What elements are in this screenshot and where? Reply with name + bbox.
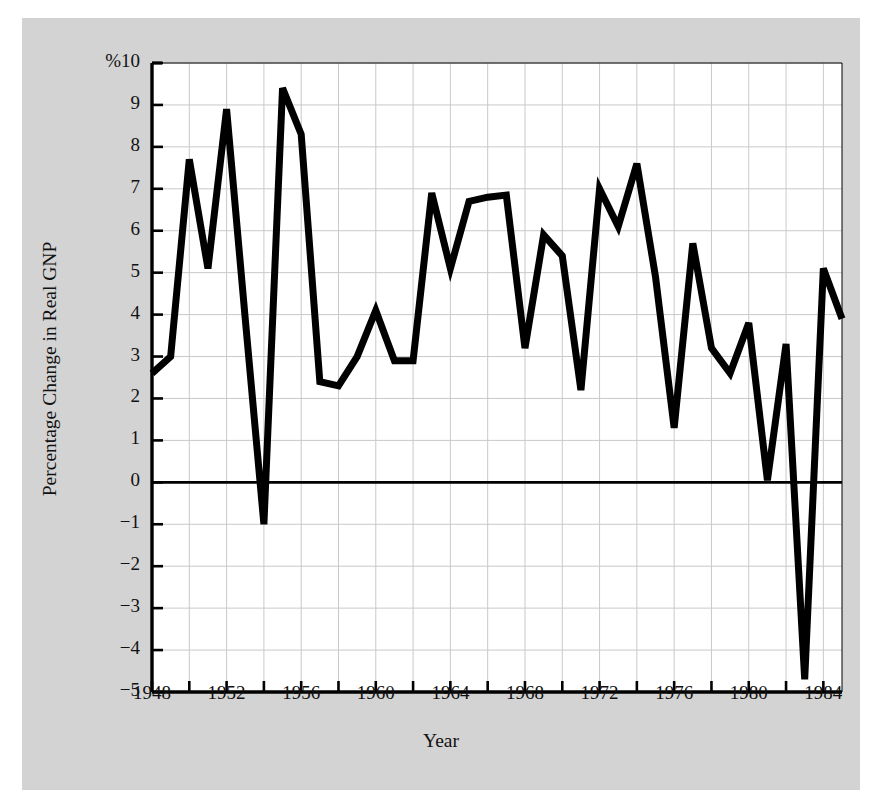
x-tick-label: 1948 bbox=[117, 682, 187, 704]
plot-background bbox=[152, 63, 842, 692]
y-tick-label: 0 bbox=[80, 469, 140, 491]
y-tick-label: −4 bbox=[80, 637, 140, 659]
chart-figure: Percentage Change in Real GNP Year %1098… bbox=[22, 18, 860, 790]
y-tick-label: 6 bbox=[80, 218, 140, 240]
y-tick-label: −2 bbox=[80, 553, 140, 575]
figure-panel: Percentage Change in Real GNP Year %1098… bbox=[22, 18, 860, 790]
y-tick-label: 2 bbox=[80, 385, 140, 407]
y-tick-label: −3 bbox=[80, 595, 140, 617]
y-axis-title: Percentage Change in Real GNP bbox=[39, 169, 69, 569]
x-tick-label: 1964 bbox=[415, 682, 485, 704]
x-tick-label: 1956 bbox=[266, 682, 336, 704]
cut-off-page-title bbox=[0, 0, 880, 6]
y-tick-label: %10 bbox=[80, 50, 140, 72]
y-tick-label: −1 bbox=[80, 511, 140, 533]
y-tick-label: 5 bbox=[80, 260, 140, 282]
y-tick-label: 8 bbox=[80, 134, 140, 156]
x-tick-label: 1976 bbox=[639, 682, 709, 704]
x-tick-label: 1972 bbox=[565, 682, 635, 704]
x-tick-label: 1952 bbox=[192, 682, 262, 704]
y-tick-label: 7 bbox=[80, 176, 140, 198]
y-tick-label: 4 bbox=[80, 302, 140, 324]
y-tick-label: 9 bbox=[80, 92, 140, 114]
y-tick-label: 1 bbox=[80, 427, 140, 449]
line-chart-plot bbox=[22, 18, 860, 790]
x-tick-label: 1984 bbox=[788, 682, 858, 704]
y-tick-label: 3 bbox=[80, 344, 140, 366]
x-tick-label: 1980 bbox=[714, 682, 784, 704]
x-axis-title: Year bbox=[22, 730, 860, 752]
x-tick-label: 1968 bbox=[490, 682, 560, 704]
x-tick-label: 1960 bbox=[341, 682, 411, 704]
